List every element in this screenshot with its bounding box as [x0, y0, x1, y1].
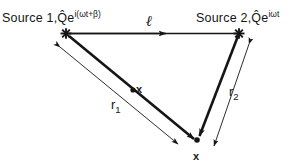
- source2-label-text: Source 2,: [196, 11, 251, 25]
- r2-label: r2: [229, 85, 239, 101]
- separation-length-label: ℓ: [146, 14, 152, 29]
- source2-amplitude-hat: Q̂: [251, 12, 261, 25]
- source2-label: Source 2,Q̂eiωt: [196, 10, 279, 25]
- source2-star-marker: [234, 28, 245, 39]
- source1-exponent: i(ωt+β): [74, 9, 100, 19]
- figure-canvas: Source 1,Q̂ei(ωt+β) Source 2,Q̂eiωt ℓ r1…: [0, 0, 303, 168]
- source2-exponent: iωt: [268, 9, 279, 19]
- source1-label-text: Source 1,: [2, 11, 57, 25]
- field-point-label-bottom: x: [193, 150, 199, 162]
- source1-label: Source 1,Q̂ei(ωt+β): [2, 10, 101, 25]
- field-point-marker-mid: [130, 87, 135, 92]
- r1-subscript: 1: [115, 104, 120, 115]
- r1-ray-arrow: [69, 36, 194, 139]
- r2-subscript: 2: [233, 91, 238, 102]
- field-point-marker-bottom: [194, 137, 200, 143]
- r1-label: r1: [111, 98, 121, 114]
- source1-amplitude-hat: Q̂: [57, 12, 67, 25]
- field-point-label-mid: x: [136, 83, 142, 95]
- source1-star-marker: [61, 28, 72, 39]
- r1-dimension-line: [60, 47, 178, 144]
